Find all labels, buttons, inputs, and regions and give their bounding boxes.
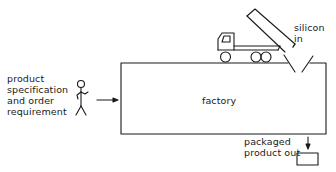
- output-arrow-icon: [306, 137, 310, 149]
- label-line: specification: [7, 84, 68, 95]
- label-line: in: [294, 33, 325, 44]
- silicon-in-label: silicon in: [294, 22, 325, 44]
- label-line: packaged: [244, 136, 300, 147]
- label-line: silicon: [294, 22, 325, 33]
- factory-label: factory: [202, 95, 236, 106]
- order-input-arrow-icon: [97, 98, 118, 102]
- label-line: product: [7, 73, 68, 84]
- customer-stick-figure-icon: [76, 81, 88, 116]
- label-line: product out: [244, 147, 300, 158]
- product-spec-label: product specification and order requirem…: [7, 73, 68, 117]
- label-line: and order: [7, 95, 68, 106]
- label-line: requirement: [7, 106, 68, 117]
- truck-icon: [218, 9, 295, 62]
- packaged-product-out-label: packaged product out: [244, 136, 300, 158]
- hopper-funnel: [284, 55, 313, 72]
